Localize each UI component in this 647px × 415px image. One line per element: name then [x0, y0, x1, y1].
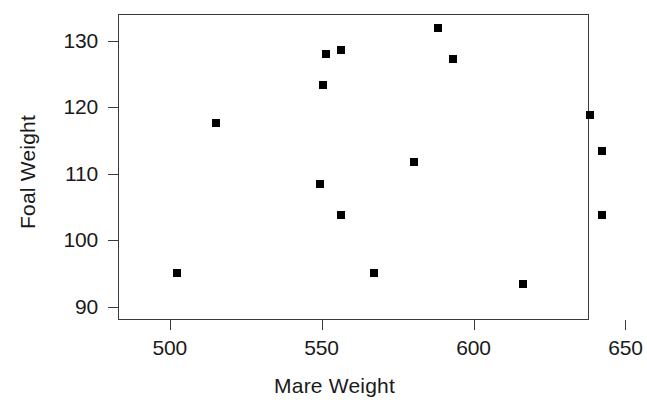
data-point-marker	[434, 24, 442, 32]
data-point-marker	[598, 211, 606, 219]
data-point-marker	[519, 280, 527, 288]
y-tick-label: 120	[34, 96, 98, 117]
data-point-marker	[173, 269, 181, 277]
y-tick-label: 100	[34, 229, 98, 250]
x-tick-label: 500	[130, 336, 210, 360]
data-point-marker	[319, 81, 327, 89]
x-axis-title-text: Mare Weight	[274, 374, 395, 398]
data-point-marker	[410, 158, 418, 166]
y-tick-label: 130	[34, 30, 98, 51]
y-tick-mark	[108, 41, 118, 42]
x-tick-mark	[322, 320, 323, 330]
x-tick-label: 600	[434, 336, 514, 360]
y-tick-label: 90	[34, 296, 98, 317]
x-axis-title: Mare Weight	[0, 374, 617, 398]
data-point-marker	[337, 211, 345, 219]
y-tick-mark	[108, 174, 118, 175]
data-point-marker	[212, 119, 220, 127]
data-point-marker	[598, 147, 606, 155]
y-tick-mark	[108, 307, 118, 308]
x-tick-label: 550	[282, 336, 362, 360]
x-tick-mark	[474, 320, 475, 330]
y-tick-mark	[108, 240, 118, 241]
y-axis-title: Foal Weight	[16, 82, 40, 262]
y-tick-mark	[108, 107, 118, 108]
x-tick-mark	[170, 320, 171, 330]
y-tick-label: 110	[34, 163, 98, 184]
data-point-marker	[322, 50, 330, 58]
x-tick-label: 650	[585, 336, 647, 360]
plot-area	[119, 15, 588, 319]
data-point-marker	[316, 180, 324, 188]
x-tick-mark	[625, 320, 626, 330]
plot-frame	[118, 14, 589, 320]
data-point-marker	[586, 111, 594, 119]
data-point-marker	[449, 55, 457, 63]
data-point-marker	[370, 269, 378, 277]
data-point-marker	[337, 46, 345, 54]
